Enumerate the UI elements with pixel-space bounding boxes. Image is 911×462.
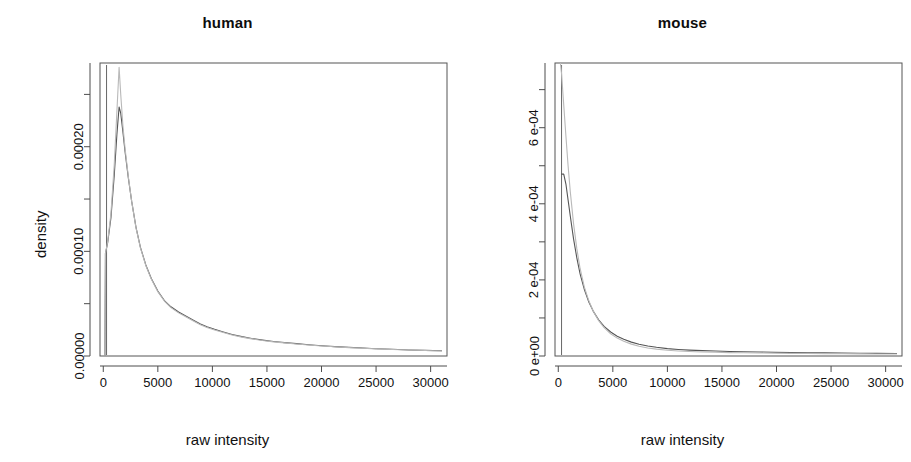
y-tick-label: 2 e-04 — [527, 261, 542, 298]
x-tick-label: 25000 — [813, 375, 849, 390]
x-tick-label: 10000 — [194, 375, 230, 390]
density-curve — [562, 174, 897, 353]
x-tick-label: 30000 — [413, 375, 449, 390]
y-axis-label-human: density — [32, 210, 49, 258]
y-tick-label: 0.00000 — [72, 333, 87, 380]
x-axis-label-human: raw intensity — [0, 431, 455, 448]
x-axis-label-mouse: raw intensity — [455, 431, 910, 448]
x-tick-label: 25000 — [358, 375, 394, 390]
x-tick-label: 10000 — [649, 375, 685, 390]
density-curve — [105, 107, 442, 356]
x-tick-label: 30000 — [868, 375, 904, 390]
x-tick-label: 5000 — [143, 375, 172, 390]
y-tick-label: 0.00010 — [72, 228, 87, 275]
panel-human: human 0.000000.000100.000200500010000150… — [0, 0, 455, 462]
plot-area-human: 0.000000.000100.000200500010000150002000… — [0, 0, 455, 462]
x-tick-label: 5000 — [598, 375, 627, 390]
density-curve — [105, 67, 442, 356]
x-tick-label: 20000 — [758, 375, 794, 390]
density-figure: human 0.000000.000100.000200500010000150… — [0, 0, 911, 462]
x-tick-label: 20000 — [303, 375, 339, 390]
y-tick-label: 4 e-04 — [527, 185, 542, 222]
x-tick-label: 15000 — [249, 375, 285, 390]
density-curve — [560, 59, 897, 354]
panel-mouse: mouse 0 e+002 e-044 e-046 e-040500010000… — [455, 0, 910, 462]
y-tick-label: 6 e-04 — [527, 109, 542, 146]
x-tick-label: 15000 — [704, 375, 740, 390]
plot-area-mouse: 0 e+002 e-044 e-046 e-040500010000150002… — [455, 0, 910, 462]
y-tick-label: 0 e+00 — [527, 336, 542, 376]
x-tick-label: 0 — [100, 375, 107, 390]
x-tick-label: 0 — [555, 375, 562, 390]
y-tick-label: 0.00020 — [72, 123, 87, 170]
